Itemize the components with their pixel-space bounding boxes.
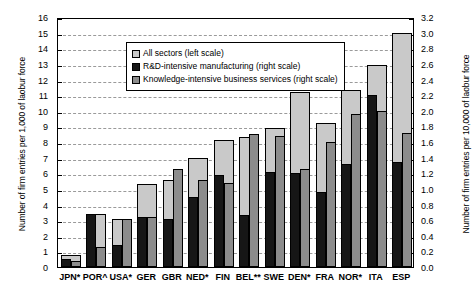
plot-area: All sectors (left scale) R&D-intensive m… xyxy=(57,18,414,268)
chart-container: Number of firm entries per 1,000 of laob… xyxy=(0,0,475,304)
y-tick-label-right: 1.6 xyxy=(421,139,434,148)
y-tick-label-left: 4 xyxy=(43,202,48,211)
x-axis-category-labels: JPN*POR^USA*GERGBRNED*FINBEL**SWEDEN*FRA… xyxy=(57,272,414,288)
y-tick-label-left: 15 xyxy=(38,30,48,39)
bar-rd-manufacturing xyxy=(341,164,351,267)
bar-kibs xyxy=(96,247,106,267)
y-tick-label-right: 1.4 xyxy=(421,155,434,164)
y-tick-label-right: 0.2 xyxy=(421,248,434,257)
bar-rd-manufacturing xyxy=(137,217,147,267)
bar-kibs xyxy=(147,217,157,267)
y-tick-label-left: 3 xyxy=(43,217,48,226)
legend-label-all-sectors: All sectors (left scale) xyxy=(143,49,224,58)
bar-group xyxy=(84,19,110,267)
bar-kibs xyxy=(198,180,208,268)
y-tick-label-left: 9 xyxy=(43,123,48,132)
bar-kibs xyxy=(377,111,387,267)
y-tick-label-right: 0.6 xyxy=(421,217,434,226)
bar-rd-manufacturing xyxy=(239,215,249,267)
bar-kibs xyxy=(275,136,285,267)
bar-kibs xyxy=(326,142,336,267)
y-tick-label-right: 0.4 xyxy=(421,233,434,242)
y-tick-label-left: 6 xyxy=(43,170,48,179)
x-axis-label: ESP xyxy=(378,272,424,283)
bar-rd-manufacturing xyxy=(163,219,173,267)
bar-kibs xyxy=(402,133,412,267)
y-tick-label-right: 3.2 xyxy=(421,14,434,23)
y-tick-label-left: 2 xyxy=(43,233,48,242)
bar-group xyxy=(390,19,416,267)
y-tick-label-right: 2.8 xyxy=(421,45,434,54)
y-tick-label-left: 8 xyxy=(43,139,48,148)
bar-kibs xyxy=(173,169,183,267)
bar-rd-manufacturing xyxy=(392,162,402,267)
y-tick-label-right: 0.8 xyxy=(421,202,434,211)
chart-legend: All sectors (left scale) R&D-intensive m… xyxy=(126,42,345,91)
y-tick-label-right: 2.2 xyxy=(421,92,434,101)
y-tick-label-left: 5 xyxy=(43,186,48,195)
bar-kibs xyxy=(122,219,132,267)
y-tick-label-left: 1 xyxy=(43,248,48,257)
bar-rd-manufacturing xyxy=(367,95,377,267)
legend-swatch-all-sectors-icon xyxy=(132,50,140,58)
bar-rd-manufacturing xyxy=(290,173,300,267)
bar-kibs xyxy=(71,261,81,267)
bar-rd-manufacturing xyxy=(188,197,198,267)
bar-rd-manufacturing xyxy=(86,214,96,267)
y-tick-label-right: 1.8 xyxy=(421,123,434,132)
bar-kibs xyxy=(224,183,234,267)
legend-swatch-kibs-icon xyxy=(132,76,140,84)
y-tick-label-left: 7 xyxy=(43,155,48,164)
legend-label-rd-manufacturing: R&D-intensive manufacturing (right scale… xyxy=(143,62,300,71)
bar-rd-manufacturing xyxy=(214,175,224,267)
legend-swatch-rd-manufacturing-icon xyxy=(132,63,140,71)
legend-item-rd-manufacturing: R&D-intensive manufacturing (right scale… xyxy=(132,60,338,73)
bar-group xyxy=(58,19,84,267)
y-axis-left-title: Number of firm entries per 1,000 of laob… xyxy=(17,26,27,262)
y-tick-label-right: 2.0 xyxy=(421,108,434,117)
y-tick-label-left: 11 xyxy=(39,92,48,101)
legend-label-kibs: Knowledge-intensive business services (r… xyxy=(143,75,338,84)
y-tick-label-right: 2.4 xyxy=(421,77,434,86)
y-tick-label-left: 13 xyxy=(38,61,48,70)
bar-rd-manufacturing xyxy=(316,192,326,267)
y-tick-label-right: 2.6 xyxy=(421,61,434,70)
bar-kibs xyxy=(300,169,310,267)
y-tick-label-right: 1.2 xyxy=(421,170,434,179)
bar-kibs xyxy=(249,134,259,267)
bar-rd-manufacturing xyxy=(61,259,71,267)
legend-item-kibs: Knowledge-intensive business services (r… xyxy=(132,73,338,86)
y-tick-label-right: 3.0 xyxy=(421,30,434,39)
y-axis-left-ticks: 012345678910111213141516 xyxy=(28,0,50,304)
y-tick-label-left: 16 xyxy=(38,14,48,23)
y-tick-label-left: 12 xyxy=(38,77,48,86)
bar-rd-manufacturing xyxy=(265,172,275,267)
y-tick-label-right: 1.0 xyxy=(421,186,434,195)
y-axis-right-title: Number of firm entries per 10,000 of lao… xyxy=(461,26,471,262)
y-tick-label-left: 10 xyxy=(38,108,48,117)
legend-item-all-sectors: All sectors (left scale) xyxy=(132,47,338,60)
y-axis-right-ticks: 0.00.20.40.60.81.01.21.41.61.82.02.22.42… xyxy=(419,0,441,304)
bar-kibs xyxy=(351,114,361,267)
bar-rd-manufacturing xyxy=(112,245,122,267)
bar-group xyxy=(364,19,390,267)
y-tick-label-left: 14 xyxy=(38,45,48,54)
